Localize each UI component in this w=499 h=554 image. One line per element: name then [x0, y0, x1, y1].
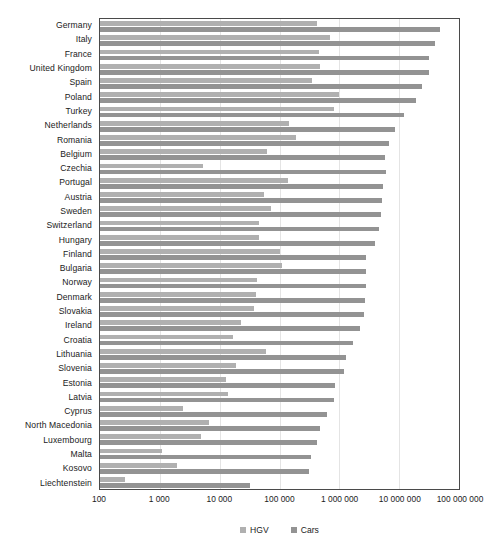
- category-label: Bulgaria: [0, 261, 96, 275]
- category-label: Ireland: [0, 318, 96, 332]
- bar-cars: [100, 298, 365, 303]
- bar-hgv: [100, 121, 289, 126]
- bar-cars: [100, 326, 360, 331]
- legend-label: Cars: [301, 525, 319, 535]
- bar-hgv: [100, 420, 209, 425]
- bar-row: [100, 461, 459, 475]
- bar-row: [100, 219, 459, 233]
- bar-cars: [100, 198, 382, 203]
- bar-row: [100, 190, 459, 204]
- category-label: Estonia: [0, 375, 96, 389]
- bar-cars: [100, 56, 429, 61]
- category-label: Romania: [0, 132, 96, 146]
- legend-item-hgv[interactable]: HGV: [240, 525, 269, 535]
- gridline: [459, 19, 460, 489]
- bar-cars: [100, 398, 334, 403]
- bar-hgv: [100, 249, 280, 254]
- bar-row: [100, 432, 459, 446]
- chart-legend: HGVCars: [99, 522, 460, 538]
- category-label: United Kingdom: [0, 61, 96, 75]
- bar-chart: GermanyItalyFranceUnited KingdomSpainPol…: [0, 0, 499, 554]
- legend-item-cars[interactable]: Cars: [291, 525, 319, 535]
- legend-swatch-icon: [240, 527, 246, 533]
- bar-cars: [100, 127, 395, 132]
- category-label: Austria: [0, 190, 96, 204]
- bar-cars: [100, 312, 364, 317]
- legend-swatch-icon: [291, 527, 297, 533]
- category-label: Lithuania: [0, 347, 96, 361]
- bar-hgv: [100, 406, 183, 411]
- bar-cars: [100, 98, 416, 103]
- category-label: Latvia: [0, 390, 96, 404]
- bar-cars: [100, 284, 366, 289]
- category-label: France: [0, 47, 96, 61]
- plot-area: [99, 18, 460, 490]
- category-label: Switzerland: [0, 218, 96, 232]
- x-tick-label: 100 000 000: [437, 494, 484, 504]
- bar-row: [100, 176, 459, 190]
- category-label: Poland: [0, 89, 96, 103]
- bar-hgv: [100, 349, 266, 354]
- category-label: Norway: [0, 275, 96, 289]
- bar-rows: [100, 19, 459, 489]
- category-label: Kosovo: [0, 461, 96, 475]
- legend-label: HGV: [250, 525, 269, 535]
- bar-row: [100, 361, 459, 375]
- bar-row: [100, 404, 459, 418]
- bar-cars: [100, 212, 381, 217]
- bar-row: [100, 119, 459, 133]
- bar-row: [100, 33, 459, 47]
- x-tick-label: 10 000 000: [379, 494, 421, 504]
- category-label: Portugal: [0, 175, 96, 189]
- category-label: Luxembourg: [0, 433, 96, 447]
- category-label: Malta: [0, 447, 96, 461]
- bar-cars: [100, 483, 250, 488]
- bar-cars: [100, 184, 383, 189]
- bar-hgv: [100, 392, 228, 397]
- bar-cars: [100, 241, 375, 246]
- category-label: Turkey: [0, 104, 96, 118]
- category-label: Cyprus: [0, 404, 96, 418]
- bar-row: [100, 162, 459, 176]
- bar-cars: [100, 341, 353, 346]
- bar-hgv: [100, 263, 282, 268]
- bar-row: [100, 347, 459, 361]
- bar-cars: [100, 170, 386, 175]
- bar-hgv: [100, 221, 259, 226]
- bar-hgv: [100, 50, 319, 55]
- bar-hgv: [100, 64, 320, 69]
- bar-cars: [100, 369, 344, 374]
- category-label: Slovenia: [0, 361, 96, 375]
- category-label: Spain: [0, 75, 96, 89]
- bar-row: [100, 333, 459, 347]
- bar-cars: [100, 41, 435, 46]
- bar-row: [100, 418, 459, 432]
- category-label: North Macedonia: [0, 418, 96, 432]
- x-tick-label: 1 000: [149, 494, 170, 504]
- bar-cars: [100, 84, 422, 89]
- bar-row: [100, 447, 459, 461]
- bar-row: [100, 105, 459, 119]
- bar-row: [100, 261, 459, 275]
- bar-hgv: [100, 21, 317, 26]
- bar-hgv: [100, 178, 288, 183]
- bar-cars: [100, 469, 309, 474]
- category-label: Croatia: [0, 333, 96, 347]
- bar-hgv: [100, 78, 312, 83]
- bar-row: [100, 48, 459, 62]
- bar-hgv: [100, 320, 241, 325]
- bar-cars: [100, 269, 366, 274]
- bar-cars: [100, 113, 404, 118]
- bar-hgv: [100, 149, 267, 154]
- bar-row: [100, 19, 459, 33]
- bar-cars: [100, 141, 389, 146]
- category-label: Hungary: [0, 232, 96, 246]
- bar-row: [100, 204, 459, 218]
- bar-row: [100, 390, 459, 404]
- bar-cars: [100, 27, 440, 32]
- bar-row: [100, 304, 459, 318]
- category-label: Netherlands: [0, 118, 96, 132]
- bar-cars: [100, 412, 327, 417]
- bar-cars: [100, 227, 379, 232]
- bar-hgv: [100, 292, 256, 297]
